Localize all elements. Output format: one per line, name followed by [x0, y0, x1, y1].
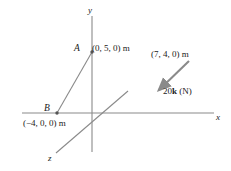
- point-label-a: A: [74, 44, 80, 54]
- point-coordinate-a: (0, 5, 0) m: [92, 44, 130, 53]
- point-marker-B: [55, 111, 58, 114]
- point-coordinate-b: (−4, 0, 0) m: [23, 119, 66, 128]
- physics-diagram: y x z A (0, 5, 0) m B (−4, 0, 0) m (7, 4…: [0, 0, 231, 171]
- force-magnitude-value: 20: [163, 86, 172, 96]
- segment-B-to-A: [57, 52, 92, 113]
- force-units: (N): [177, 86, 192, 96]
- point-label-b: B: [44, 104, 50, 114]
- z-axis-label: z: [48, 154, 52, 163]
- x-axis-label: x: [216, 113, 220, 122]
- force-magnitude-label: 20k (N): [163, 87, 192, 96]
- diagram-canvas: [0, 0, 231, 171]
- force-application-point-coordinate: (7, 4, 0) m: [151, 50, 189, 59]
- y-axis-label: y: [88, 6, 92, 15]
